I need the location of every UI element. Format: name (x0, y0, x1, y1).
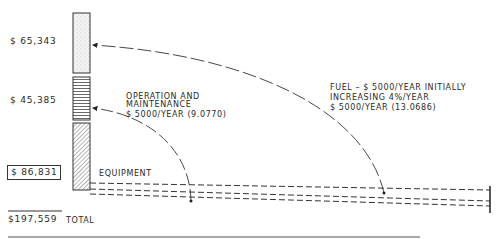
equipment-label: EQUIPMENT (99, 169, 152, 178)
fuel-desc-line2: INCREASING 4%/YEAR (330, 93, 429, 102)
fuel-desc-line3: $ 5000/YEAR (13.0686) (330, 103, 436, 112)
total-label: TOTAL (66, 216, 94, 225)
om-arrow (93, 108, 191, 201)
om-arrow-tail-dot (190, 200, 193, 203)
om-desc-line3: $ 5000/YEAR (9.0770) (126, 110, 226, 119)
cashflow-line-equipment (90, 194, 490, 206)
om-desc-line2: MAINTENANCE (126, 100, 191, 109)
cost-diagram (0, 0, 496, 239)
total-amount: $197,559 (8, 215, 57, 224)
fuel-arrow-tail-dot (383, 192, 386, 195)
equipment-amount: $ 86,831 (7, 165, 61, 180)
om-amount: $ 45,385 (10, 96, 56, 105)
cashflow-line-fuel (90, 183, 490, 190)
equipment-bar (73, 123, 90, 190)
fuel-bar (73, 13, 90, 73)
fuel-amount: $ 65,343 (10, 37, 56, 46)
fuel-desc-line1: FUEL – $ 5000/YEAR INITIALLY (330, 83, 466, 92)
om-bar (73, 77, 90, 120)
cashflow-line-om (90, 189, 490, 201)
